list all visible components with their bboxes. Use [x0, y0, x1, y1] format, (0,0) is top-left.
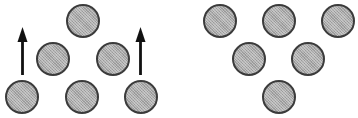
right-circle-group: [179, 0, 358, 118]
circle-bottom-center: [262, 80, 296, 114]
circle-bottom-center: [65, 80, 99, 114]
circle-top-right: [321, 4, 355, 38]
circle-mid-left: [232, 42, 266, 76]
arrow-up-left-icon: [16, 27, 29, 75]
diagram-canvas: [0, 0, 358, 118]
left-circle-group: [0, 0, 179, 118]
circle-top-left: [203, 4, 237, 38]
circle-bottom-right: [124, 80, 158, 114]
circle-top-center: [262, 4, 296, 38]
circle-bottom-left: [5, 80, 39, 114]
circle-top-center: [66, 4, 100, 38]
circle-mid-right: [291, 42, 325, 76]
circle-mid-left: [36, 42, 70, 76]
arrow-up-right-icon: [134, 27, 147, 75]
circle-mid-right: [96, 42, 130, 76]
